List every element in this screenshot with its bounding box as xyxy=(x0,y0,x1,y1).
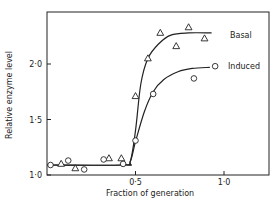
triangle-marker xyxy=(201,35,208,41)
triangle-marker xyxy=(132,93,139,99)
y-axis-label: Relative enzyme level xyxy=(5,51,14,139)
circle-marker xyxy=(65,158,71,164)
y-tick-label: 1·0 xyxy=(29,171,42,180)
triangle-marker xyxy=(157,29,164,35)
x-tick-label: 0·5 xyxy=(129,178,142,187)
circle-marker xyxy=(101,157,107,163)
curve-induced xyxy=(47,67,210,165)
axis-ticks: 0·51·01·01·52·0 xyxy=(29,60,230,187)
legend-label-induced: Induced xyxy=(228,62,260,71)
circle-marker xyxy=(133,138,139,144)
circle-marker xyxy=(191,76,197,82)
triangle-marker xyxy=(58,160,65,166)
x-axis-label: Fraction of generation xyxy=(106,189,194,198)
circle-marker xyxy=(48,162,54,168)
circle-marker xyxy=(120,161,126,167)
legend: BasalInduced xyxy=(228,31,260,71)
triangle-marker xyxy=(173,43,180,49)
circle-marker xyxy=(81,167,87,173)
chart: 0·51·01·01·52·0 BasalInduced Fraction of… xyxy=(0,0,278,207)
y-tick-label: 1·5 xyxy=(29,116,42,125)
fitted-curves xyxy=(47,33,212,166)
triangle-marker xyxy=(118,155,125,161)
x-tick-label: 1·0 xyxy=(218,178,231,187)
triangle-marker xyxy=(144,55,151,61)
y-tick-label: 2·0 xyxy=(29,60,42,69)
circle-marker xyxy=(150,91,156,97)
circle-marker xyxy=(212,63,218,69)
triangle-marker xyxy=(185,24,192,30)
legend-label-basal: Basal xyxy=(230,31,252,40)
curve-basal xyxy=(47,33,212,166)
